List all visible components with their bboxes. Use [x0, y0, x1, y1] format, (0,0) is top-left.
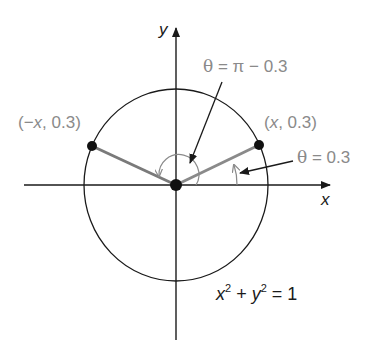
point-left — [87, 141, 97, 151]
point-label-post: , 0.3) — [42, 113, 81, 132]
point-label-var: x — [34, 113, 43, 132]
equation-plus: + — [231, 284, 252, 304]
equation-x: x — [216, 284, 225, 304]
point-label-right: (x, 0.3) — [264, 114, 317, 131]
origin-point — [170, 179, 182, 191]
angle-arc-small — [234, 165, 237, 185]
theta-symbol: θ — [297, 147, 307, 167]
point-label-post: , 0.3) — [278, 113, 317, 132]
theta-symbol: θ — [203, 56, 213, 76]
point-label-left: (−x, 0.3) — [18, 114, 81, 131]
point-right — [254, 140, 264, 150]
ray-right — [176, 145, 259, 185]
point-label-var: x — [270, 113, 279, 132]
angle-expression: = π − 0.3 — [213, 57, 287, 76]
unit-circle-diagram — [0, 0, 383, 341]
angle-expression: = 0.3 — [307, 148, 350, 167]
circle-equation: x2 + y2 = 1 — [216, 285, 297, 303]
point-label-pre: (− — [18, 113, 34, 132]
equation-y: y — [252, 284, 261, 304]
equation-rhs: = 1 — [267, 284, 298, 304]
ray-left — [92, 146, 176, 185]
angle-label-small: θ = 0.3 — [297, 149, 350, 166]
y-axis-label: y — [159, 21, 168, 38]
x-axis-label: x — [321, 191, 330, 208]
angle-label-large: θ = π − 0.3 — [203, 58, 287, 75]
